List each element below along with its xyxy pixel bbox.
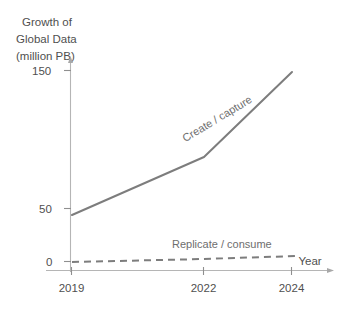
y-tick-label-50: 50 — [39, 203, 52, 215]
x-axis-arrow-icon — [327, 268, 334, 273]
y-tick-label-0: 0 — [46, 256, 52, 268]
series-line-create-capture — [72, 72, 292, 215]
chart-title-line-2: Global Data — [16, 33, 77, 45]
series-line-replicate-consume — [72, 256, 295, 262]
chart-title-line-3: (million PB) — [16, 50, 75, 62]
x-tick-label-2024: 2024 — [279, 282, 305, 294]
chart-title-line-1: Growth of — [22, 16, 73, 28]
growth-of-global-data-line-chart: Growth of Global Data (million PB) 150 5… — [0, 0, 352, 309]
x-tick-label-2019: 2019 — [59, 282, 85, 294]
chart-container: Growth of Global Data (million PB) 150 5… — [0, 0, 352, 309]
x-axis-name-label: Year — [298, 255, 321, 267]
x-tick-label-2022: 2022 — [191, 282, 217, 294]
y-tick-label-150: 150 — [32, 65, 51, 77]
series-label-replicate-consume: Replicate / consume — [172, 238, 272, 250]
